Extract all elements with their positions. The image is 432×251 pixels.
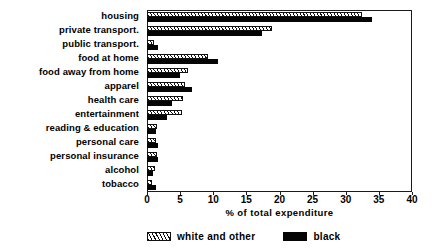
x-tick-label: 30 <box>340 194 351 206</box>
category-label: apparel <box>105 81 140 91</box>
bar-group <box>147 40 412 50</box>
x-axis-tick-labels: 0510152025303540 <box>147 194 412 208</box>
category-label: alcohol <box>105 165 139 175</box>
bar-black <box>147 115 167 120</box>
chart-legend: white and other black <box>147 228 432 244</box>
x-tick-label: 5 <box>177 194 183 206</box>
legend-item-black: black <box>283 231 340 242</box>
bar-black <box>147 101 172 106</box>
category-label: private transport. <box>59 25 139 35</box>
bar-black <box>147 17 372 22</box>
bar-black <box>147 129 156 134</box>
bar-group <box>147 26 412 36</box>
solid-black-swatch-icon <box>283 232 307 241</box>
category-axis-labels: housingprivate transport.public transpor… <box>0 10 143 192</box>
expenditure-bar-chart: housingprivate transport.public transpor… <box>0 0 432 251</box>
bars-layer <box>147 10 412 192</box>
x-axis-title: % of total expenditure <box>147 207 412 218</box>
bar-group <box>147 68 412 78</box>
bar-black <box>147 185 156 190</box>
category-label: housing <box>101 11 139 21</box>
bar-group <box>147 152 412 162</box>
x-tick-label: 20 <box>274 194 285 206</box>
x-tick-label: 35 <box>373 194 384 206</box>
bar-group <box>147 54 412 64</box>
bar-black <box>147 59 218 64</box>
category-label: reading & education <box>46 123 139 133</box>
hatched-swatch-icon <box>147 232 171 241</box>
bar-group <box>147 96 412 106</box>
x-tick-label: 0 <box>144 194 150 206</box>
category-label: health care <box>88 95 139 105</box>
x-tick-label: 25 <box>307 194 318 206</box>
bar-black <box>147 87 192 92</box>
bar-black <box>147 171 153 176</box>
category-label: public transport. <box>62 39 139 49</box>
bar-group <box>147 12 412 22</box>
x-tick-label: 15 <box>241 194 252 206</box>
category-label: personal care <box>76 137 139 147</box>
bar-group <box>147 166 412 176</box>
bar-group <box>147 180 412 190</box>
bar-group <box>147 138 412 148</box>
bar-group <box>147 82 412 92</box>
category-label: food away from home <box>39 67 139 77</box>
x-tick-label: 10 <box>208 194 219 206</box>
category-label: entertainment <box>75 109 139 119</box>
category-label: tobacco <box>102 179 139 189</box>
bar-black <box>147 31 262 36</box>
bar-black <box>147 157 158 162</box>
legend-label-white-and-other: white and other <box>177 231 255 242</box>
category-label: personal insurance <box>50 151 139 161</box>
bar-black <box>147 45 158 50</box>
category-label: food at home <box>78 53 139 63</box>
bar-black <box>147 143 158 148</box>
legend-item-white-and-other: white and other <box>147 231 255 242</box>
legend-label-black: black <box>313 231 340 242</box>
x-tick-label: 40 <box>406 194 417 206</box>
bar-group <box>147 124 412 134</box>
bar-black <box>147 73 180 78</box>
bar-group <box>147 110 412 120</box>
